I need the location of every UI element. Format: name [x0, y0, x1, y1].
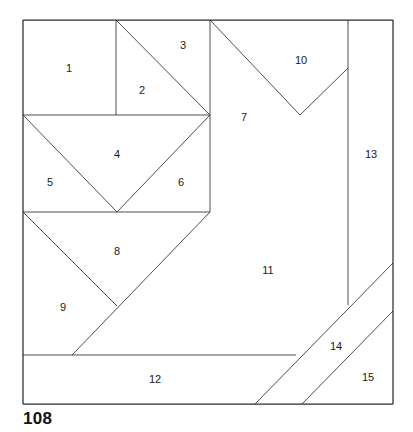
piece-label-11: 11: [262, 264, 273, 276]
piece-label-1: 1: [66, 62, 72, 74]
piece-label-8: 8: [114, 245, 120, 257]
piece-label-14: 14: [330, 340, 342, 352]
diagonal-7-10-upper: [210, 20, 300, 115]
diagonal-long-11-edge: [72, 212, 210, 355]
piece-label-10: 10: [295, 54, 307, 66]
piece-label-4: 4: [114, 148, 120, 160]
diagonal-14-15-divider: [302, 311, 393, 404]
piece-label-7: 7: [241, 111, 247, 123]
puzzle-diagram: 123456789101112131415: [0, 0, 413, 432]
piece-label-15: 15: [362, 371, 374, 383]
piece-label-5: 5: [47, 176, 53, 188]
diagonal-9-8-left: [23, 212, 117, 306]
piece-label-13: 13: [365, 148, 377, 160]
diagonal-4-6-right: [117, 115, 210, 212]
diagonal-10-13-lower: [300, 68, 348, 115]
piece-label-6: 6: [178, 176, 184, 188]
plate-number-caption: 108: [23, 409, 52, 429]
dissection-puzzle-figure: 123456789101112131415 108: [0, 0, 413, 432]
piece-label-9: 9: [60, 301, 66, 313]
piece-label-3: 3: [180, 39, 186, 51]
piece-label-12: 12: [149, 373, 161, 385]
diagonal-2-3-divider: [116, 20, 210, 115]
piece-label-2: 2: [139, 84, 145, 96]
diagonal-5-4-left: [23, 115, 117, 212]
